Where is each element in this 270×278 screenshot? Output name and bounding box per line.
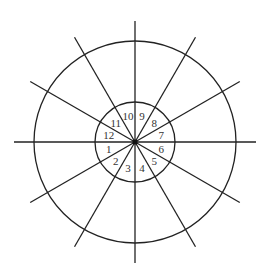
circle-diagram: 123456789101112 [0,0,270,278]
segment-label-10: 10 [122,110,134,122]
segment-label-9: 9 [139,110,145,122]
segment-label-7: 7 [159,129,165,141]
segment-label-4: 4 [139,162,145,174]
segment-label-8: 8 [151,117,157,129]
segment-label-2: 2 [113,155,119,167]
segment-label-11: 11 [110,117,121,129]
segment-label-12: 12 [103,129,114,141]
segment-label-1: 1 [106,143,112,155]
segment-label-6: 6 [159,143,165,155]
segment-label-5: 5 [151,155,157,167]
segment-label-3: 3 [125,162,131,174]
center-point [133,140,138,145]
